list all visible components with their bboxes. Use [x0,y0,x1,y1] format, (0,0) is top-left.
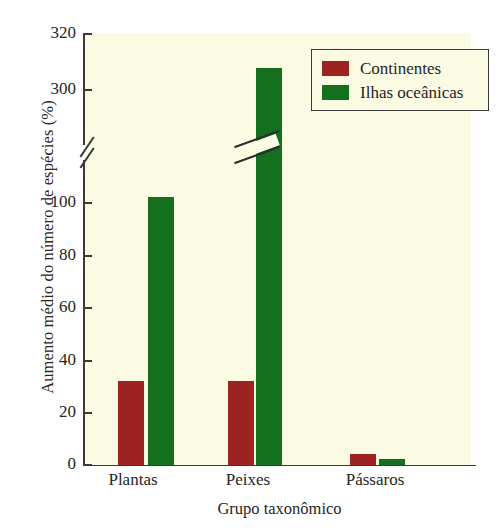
bar-peixes-continentes [228,381,254,465]
x-axis-title: Grupo taxonômico [83,499,476,519]
x-tick-label-plantas: Plantas [88,470,178,490]
bar-peixes-ilhas [256,68,282,465]
bar-break-icon-peixes [235,133,279,163]
y-tick-label-0: 0 [30,455,76,472]
y-tick-label-320: 320 [30,24,76,41]
bar-plantas-continentes [118,381,144,465]
x-tick-label-passaros: Pássaros [325,470,425,490]
bar-passaros-ilhas [379,459,405,465]
y-tick-label-40: 40 [30,351,76,368]
legend-swatch-ilhas-oceanicas [322,85,349,100]
legend: Continentes Ilhas oceânicas [311,49,489,111]
legend-swatch-continentes [322,61,349,76]
legend-item-continentes: Continentes [322,56,488,80]
legend-item-ilhas-oceanicas: Ilhas oceânicas [322,80,488,104]
y-tick-label-100: 100 [30,193,76,210]
legend-label-ilhas-oceanicas: Ilhas oceânicas [360,84,463,101]
bar-plantas-ilhas [148,197,174,465]
bar-chart: Aumento médio do número de espécies (%) … [0,0,502,531]
y-tick-label-80: 80 [30,246,76,263]
y-tick-label-300: 300 [30,80,76,97]
x-tick-label-peixes: Peixes [203,470,293,490]
y-tick-label-60: 60 [30,298,76,315]
y-tick-label-20: 20 [30,403,76,420]
legend-label-continentes: Continentes [360,60,441,77]
bar-passaros-continentes [350,454,376,465]
